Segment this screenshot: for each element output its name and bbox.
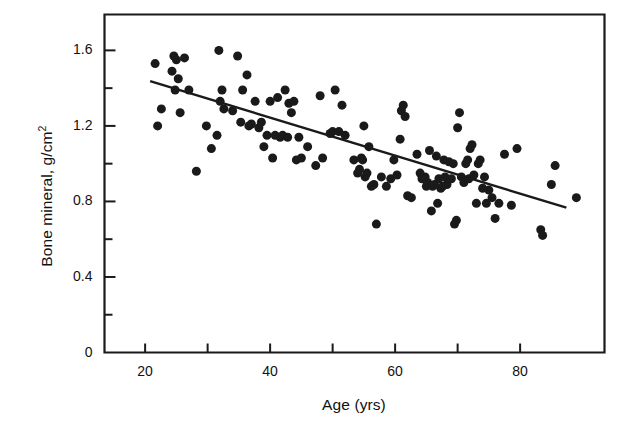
- data-point: [297, 154, 306, 163]
- data-point: [180, 53, 189, 62]
- data-point: [494, 199, 503, 208]
- data-point: [303, 142, 312, 151]
- data-point: [219, 104, 228, 113]
- y-axis-title-exponent: 2: [36, 125, 48, 131]
- data-point: [192, 167, 201, 176]
- data-point: [174, 74, 183, 83]
- data-point: [171, 86, 180, 95]
- data-point: [238, 86, 247, 95]
- data-point: [407, 193, 416, 202]
- y-tick-label: 1.6: [47, 41, 93, 57]
- data-point: [547, 180, 556, 189]
- data-points: [151, 46, 581, 240]
- data-point: [476, 155, 485, 164]
- data-point: [480, 172, 489, 181]
- data-point: [151, 59, 160, 68]
- data-point: [233, 52, 242, 61]
- data-point: [413, 150, 422, 159]
- data-point: [236, 118, 245, 127]
- data-point: [311, 161, 320, 170]
- x-tick-label: 40: [250, 363, 290, 379]
- data-point: [396, 135, 405, 144]
- data-point: [213, 131, 222, 140]
- data-point: [447, 174, 456, 183]
- data-point: [472, 199, 481, 208]
- data-point: [294, 133, 303, 142]
- data-point: [289, 97, 298, 106]
- x-tick-label: 80: [500, 363, 540, 379]
- data-point: [341, 131, 350, 140]
- data-point: [359, 121, 368, 130]
- data-point: [433, 199, 442, 208]
- data-point: [259, 142, 268, 151]
- y-axis-title: Bone mineral, g/cm2: [36, 86, 56, 306]
- data-point: [500, 150, 509, 159]
- data-point: [331, 86, 340, 95]
- data-point: [268, 154, 277, 163]
- plot-frame: [105, 15, 605, 353]
- data-point: [338, 101, 347, 110]
- axis-ticks: [105, 50, 521, 352]
- data-point: [507, 201, 516, 210]
- data-point: [453, 123, 462, 132]
- data-point: [389, 155, 398, 164]
- data-point: [427, 206, 436, 215]
- data-point: [369, 180, 378, 189]
- data-point: [513, 144, 522, 153]
- x-axis-title: Age (yrs): [104, 396, 604, 414]
- x-tick-label: 60: [375, 363, 415, 379]
- data-point: [263, 131, 272, 140]
- data-point: [468, 140, 477, 149]
- data-point: [382, 182, 391, 191]
- data-point: [393, 171, 402, 180]
- x-tick-label: 20: [125, 363, 165, 379]
- data-point: [491, 214, 500, 223]
- data-point: [399, 101, 408, 110]
- data-point: [228, 106, 237, 115]
- data-point: [281, 86, 290, 95]
- data-point: [538, 231, 547, 240]
- data-point: [251, 97, 260, 106]
- data-point: [214, 46, 223, 55]
- data-point: [172, 55, 181, 64]
- data-point: [218, 86, 227, 95]
- data-point: [157, 104, 166, 113]
- data-point: [318, 154, 327, 163]
- data-point: [363, 169, 372, 178]
- data-point: [452, 216, 461, 225]
- data-point: [364, 142, 373, 151]
- data-point: [243, 70, 252, 79]
- data-point: [176, 108, 185, 117]
- y-axis-title-text: Bone mineral, g/cm: [38, 131, 55, 266]
- data-point: [401, 112, 410, 121]
- data-point: [377, 172, 386, 181]
- data-point: [168, 67, 177, 76]
- data-point: [207, 144, 216, 153]
- data-point: [463, 155, 472, 164]
- data-point: [273, 93, 282, 102]
- data-point: [572, 193, 581, 202]
- data-point: [283, 133, 292, 142]
- data-point: [469, 171, 478, 180]
- data-point: [449, 159, 458, 168]
- data-point: [349, 155, 358, 164]
- data-point: [358, 155, 367, 164]
- data-point: [257, 118, 266, 127]
- data-point: [153, 121, 162, 130]
- scatter-plot-figure: 00.40.81.21.6 20406080 Bone mineral, g/c…: [0, 0, 623, 434]
- data-point: [202, 121, 211, 130]
- data-point: [316, 91, 325, 100]
- data-point: [551, 161, 560, 170]
- y-tick-label: 0: [47, 344, 93, 360]
- data-point: [455, 108, 464, 117]
- data-point: [184, 86, 193, 95]
- data-point: [372, 220, 381, 229]
- data-point: [287, 108, 296, 117]
